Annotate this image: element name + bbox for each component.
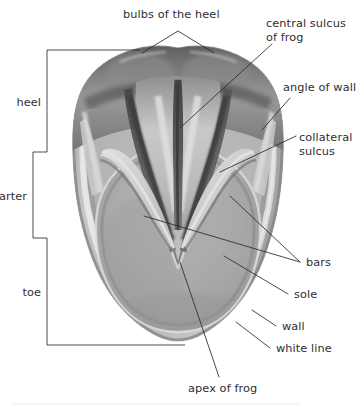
label-apex-of-frog: apex of frog <box>188 382 257 395</box>
label-quarter: quarter <box>0 190 27 203</box>
hoof-illustration <box>60 40 300 350</box>
hoof-anatomy-figure: bulbs of the heel central sulcus of frog… <box>0 0 362 412</box>
label-white-line: white line <box>276 342 332 355</box>
hoof-anatomy-diagram: bulbs of the heel central sulcus of frog… <box>0 0 362 412</box>
quarter-bracket <box>33 152 47 238</box>
leader-wall <box>252 310 276 326</box>
label-bars: bars <box>306 256 331 269</box>
label-wall: wall <box>282 320 305 333</box>
leader-white-line <box>236 322 270 348</box>
label-collateral-sulcus-line2: sulcus <box>299 145 335 158</box>
label-sole: sole <box>294 288 317 301</box>
label-bulbs-of-the-heel: bulbs of the heel <box>123 8 220 21</box>
label-heel: heel <box>16 96 41 109</box>
label-central-sulcus-of-frog-line1: central sulcus <box>266 17 346 30</box>
label-toe: toe <box>22 286 41 299</box>
label-collateral-sulcus-line1: collateral <box>299 131 352 144</box>
label-angle-of-wall: angle of wall <box>283 81 356 94</box>
label-central-sulcus-of-frog-line2: of frog <box>266 31 304 44</box>
